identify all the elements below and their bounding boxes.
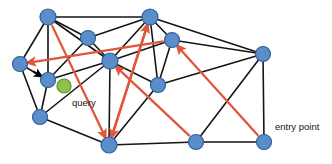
query-node[interactable] [57, 79, 71, 93]
graph-svg: queryentry point [0, 0, 332, 164]
graph-node[interactable] [40, 9, 56, 25]
final-hop-arrow [33, 72, 38, 75]
graph-node[interactable] [151, 78, 166, 93]
query-label: query [72, 97, 96, 108]
graph-node[interactable] [142, 9, 158, 25]
graph-nodes-layer [13, 9, 272, 153]
graph-edge [263, 54, 264, 142]
graph-edge [109, 85, 158, 145]
entry-point-node[interactable] [257, 135, 272, 150]
graph-edge [172, 40, 263, 54]
graph-node[interactable] [13, 57, 28, 72]
graph-node[interactable] [81, 31, 96, 46]
graph-node[interactable] [256, 47, 271, 62]
entry-point-label: entry point [275, 121, 320, 132]
graph-edge [109, 142, 196, 145]
search-path-arrow [179, 48, 258, 136]
diagram-canvas: queryentry point [0, 0, 332, 164]
graph-edge [20, 64, 40, 117]
graph-edge [158, 54, 263, 85]
graph-node[interactable] [165, 33, 180, 48]
graph-node[interactable] [41, 73, 56, 88]
graph-edge [150, 17, 158, 85]
graph-node[interactable] [101, 137, 117, 153]
graph-edge [40, 61, 110, 117]
graph-node[interactable] [33, 110, 48, 125]
search-path-arrow [31, 41, 164, 62]
graph-edge [109, 61, 110, 145]
graph-node[interactable] [102, 53, 118, 69]
graph-node[interactable] [189, 135, 204, 150]
